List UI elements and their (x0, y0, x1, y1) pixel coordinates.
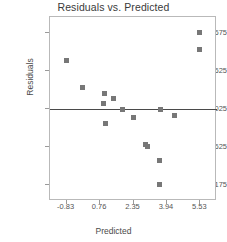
x-axis-tick-mark (133, 200, 134, 204)
zero-reference-line (50, 109, 217, 110)
y-axis-title: Residuals (25, 37, 35, 117)
chart-title: Residuals vs. Predicted (0, 1, 227, 13)
plot-area (49, 16, 216, 200)
x-axis-tick-mark (99, 200, 100, 204)
scatter-point (131, 115, 136, 120)
scatter-point (157, 158, 162, 163)
x-axis-tick-mark (166, 200, 167, 204)
scatter-point (120, 107, 125, 112)
scatter-point (64, 58, 69, 63)
x-axis-title: Predicted (0, 226, 227, 236)
x-axis-tick-mark (66, 200, 67, 204)
x-axis-tick-mark (199, 200, 200, 204)
scatter-point (103, 121, 108, 126)
scatter-point (101, 101, 106, 106)
scatter-point (145, 144, 150, 149)
residuals-vs-predicted-chart: Residuals vs. Predicted Residuals 2.0675… (0, 0, 227, 242)
scatter-point (111, 96, 116, 101)
scatter-point (157, 182, 162, 187)
scatter-point (102, 91, 107, 96)
scatter-point (80, 85, 85, 90)
scatter-point (158, 107, 163, 112)
scatter-point (197, 30, 202, 35)
scatter-point (172, 113, 177, 118)
scatter-point (197, 47, 202, 52)
